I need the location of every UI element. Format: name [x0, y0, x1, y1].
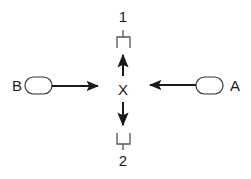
label-a: A [230, 77, 240, 94]
label-1: 1 [119, 8, 127, 25]
label-b: B [12, 77, 22, 94]
diagram-canvas: 1 X 2 B A [0, 0, 251, 179]
receptor-1-icon [117, 30, 130, 48]
label-2: 2 [119, 152, 127, 169]
capsule-b-icon [25, 77, 52, 94]
capsule-a-icon [196, 77, 223, 94]
receptor-2-icon [117, 133, 130, 150]
center-label-x: X [118, 81, 128, 98]
